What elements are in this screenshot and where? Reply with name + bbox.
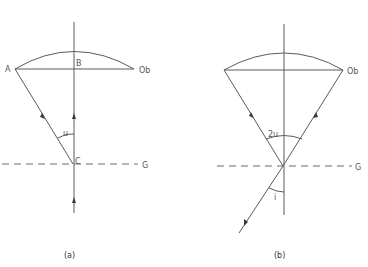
arrow-up-icon <box>313 112 318 118</box>
optics-diagram: A B Ob u C G (a) Ob 2u i G (b) <box>0 0 368 267</box>
panel-b: Ob 2u i G (b) <box>217 24 361 260</box>
label-point-c: C <box>75 157 81 166</box>
label-angle-i: i <box>274 193 276 202</box>
label-point-a: A <box>5 65 11 74</box>
ray-left-b <box>224 70 283 166</box>
label-objective-b: Ob <box>347 67 358 76</box>
caption-b: (b) <box>274 251 285 260</box>
label-angle-u: u <box>63 129 68 138</box>
arrow-up-icon <box>249 112 254 118</box>
arrow-up-icon <box>72 113 76 119</box>
label-ground-b: G <box>355 163 361 172</box>
ray-a-c <box>15 69 73 164</box>
panel-a: A B Ob u C G (a) <box>2 22 150 260</box>
arrow-up-icon <box>72 197 76 203</box>
label-angle-2u: 2u <box>268 130 278 139</box>
label-ground-a: G <box>142 161 148 170</box>
label-point-b: B <box>76 59 82 68</box>
label-objective-a: Ob <box>139 66 150 75</box>
angle-arc-i <box>269 188 284 192</box>
caption-a: (a) <box>64 251 75 260</box>
